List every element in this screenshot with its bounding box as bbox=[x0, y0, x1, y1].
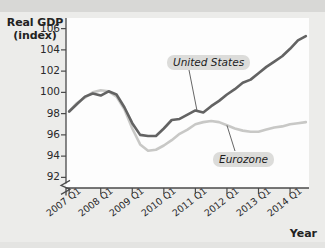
series-layer bbox=[69, 36, 306, 151]
chart-figure: Real GDP (index) Year 929496981001021041… bbox=[0, 0, 325, 248]
axes-layer bbox=[61, 18, 309, 195]
series-line-eurozone bbox=[69, 90, 306, 151]
leader-line bbox=[189, 70, 197, 110]
chart-svg bbox=[0, 0, 325, 248]
series-line-united-states bbox=[69, 36, 306, 136]
